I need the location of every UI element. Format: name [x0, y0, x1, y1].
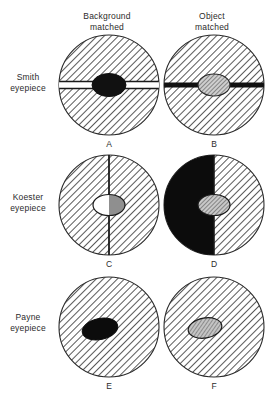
row-label-payne: Payne eyepiece — [1, 312, 55, 333]
column-header-object-matched: Object matched — [162, 11, 262, 32]
object-ellipse-a — [92, 74, 126, 97]
row-label-payne-line1: Payne — [1, 312, 55, 323]
object-ellipse-c — [93, 195, 125, 216]
panel-f: F — [162, 275, 266, 383]
figure-eyepiece-comparison: Background matched Object matched Smith … — [0, 0, 274, 406]
panel-a: A — [57, 33, 161, 139]
row-label-smith-line2: eyepiece — [1, 83, 55, 94]
column-header-object-matched-line2: matched — [162, 22, 262, 33]
object-ellipse-d — [198, 195, 230, 216]
column-header-background-matched-line2: matched — [57, 22, 157, 33]
panel-d-drawing — [162, 153, 266, 259]
column-header-background-matched-line1: Background — [57, 11, 157, 22]
object-ellipse-b — [198, 74, 230, 96]
panel-e-drawing — [57, 275, 161, 383]
panel-b: B — [162, 33, 266, 139]
row-label-koester-line1: Koester — [1, 192, 55, 203]
panel-f-drawing — [162, 275, 266, 383]
row-label-koester: Koester eyepiece — [1, 192, 55, 213]
panel-e: E — [57, 275, 161, 383]
row-label-payne-line2: eyepiece — [1, 323, 55, 334]
panel-c-drawing — [57, 153, 161, 259]
panel-letter-c: C — [89, 259, 129, 269]
row-label-smith-line1: Smith — [1, 72, 55, 83]
panel-letter-a: A — [89, 139, 129, 149]
panel-letter-d: D — [194, 259, 234, 269]
panel-b-drawing — [162, 33, 266, 139]
panel-d: D — [162, 153, 266, 259]
row-label-koester-line2: eyepiece — [1, 203, 55, 214]
column-header-object-matched-line1: Object — [162, 11, 262, 22]
panel-letter-e: E — [89, 381, 129, 391]
panel-a-drawing — [57, 33, 161, 139]
panel-c: C — [57, 153, 161, 259]
panel-letter-b: B — [194, 139, 234, 149]
panel-letter-f: F — [194, 381, 234, 391]
column-header-background-matched: Background matched — [57, 11, 157, 32]
row-label-smith: Smith eyepiece — [1, 72, 55, 93]
